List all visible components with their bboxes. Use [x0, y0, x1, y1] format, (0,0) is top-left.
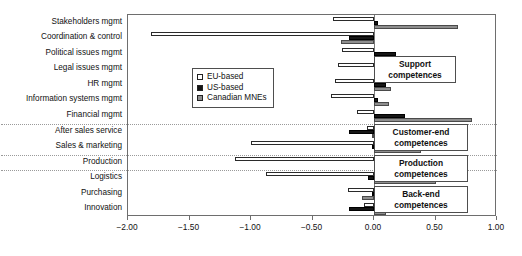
- bar-ca: [374, 102, 389, 106]
- x-tick-label: −0.50: [301, 222, 322, 232]
- x-tick: [250, 216, 251, 220]
- category-label: Innovation: [84, 203, 122, 213]
- x-tick-label: 0.00: [365, 222, 381, 232]
- annotation-back-end-line1: Back-end: [381, 189, 461, 200]
- bar-eu: [151, 32, 374, 36]
- bar-ca: [374, 87, 391, 91]
- bar-eu: [348, 188, 374, 192]
- x-tick: [496, 216, 497, 220]
- legend-item-us: US-based: [197, 83, 267, 94]
- legend-label-canadian: Canadian MNEs: [207, 93, 267, 104]
- x-axis: −2.00−1.50−1.00−0.500.000.501.00: [127, 216, 496, 242]
- bar-eu: [342, 48, 374, 52]
- category-label: Production: [83, 157, 122, 167]
- bar-eu: [338, 63, 374, 67]
- legend-swatch-icon-canadian: [197, 95, 203, 101]
- annotation-production-line2: competences: [381, 169, 461, 180]
- annotation-support: Support competences: [374, 56, 456, 83]
- category-label: Logistics: [90, 172, 122, 182]
- plot-inner: [128, 15, 495, 215]
- legend: EU-based US-based Canadian MNEs: [192, 68, 274, 108]
- annotation-customer-end-line2: competences: [381, 138, 461, 149]
- bar-eu: [235, 157, 374, 161]
- legend-item-canadian: Canadian MNEs: [197, 93, 267, 104]
- category-label: HR mgmt: [87, 79, 122, 89]
- bar-us: [349, 130, 374, 134]
- legend-label-eu: EU-based: [207, 72, 243, 83]
- annotation-support-line2: competences: [381, 70, 449, 81]
- bar-eu: [333, 17, 374, 21]
- x-tick-label: 1.00: [488, 222, 504, 232]
- category-label: Sales & marketing: [56, 141, 122, 151]
- category-label: Stakeholders mgmt: [51, 17, 122, 27]
- annotation-support-line1: Support: [381, 59, 449, 70]
- category-label: Information systems mgmt: [26, 94, 122, 104]
- category-label: Coordination & control: [41, 32, 122, 42]
- x-tick-label: 0.50: [426, 222, 442, 232]
- annotation-back-end-line2: competences: [381, 200, 461, 211]
- x-tick-label: −1.00: [239, 222, 260, 232]
- annotation-production: Production competences: [374, 155, 468, 182]
- category-label: Purchasing: [81, 188, 122, 198]
- bar-eu: [331, 94, 374, 98]
- category-axis-labels: Stakeholders mgmtCoordination & controlP…: [0, 0, 126, 256]
- annotation-production-line1: Production: [381, 158, 461, 169]
- x-tick: [435, 216, 436, 220]
- x-tick-label: −2.00: [116, 222, 137, 232]
- bar-ca: [374, 118, 472, 122]
- bar-eu: [335, 79, 374, 83]
- bar-ca: [374, 25, 458, 29]
- legend-swatch-icon-us: [197, 85, 203, 91]
- x-tick-label: −1.50: [178, 222, 199, 232]
- bar-ca: [362, 196, 374, 200]
- category-label: Legal issues mgmt: [54, 63, 122, 73]
- legend-swatch-icon-eu: [197, 74, 203, 80]
- x-tick: [189, 216, 190, 220]
- bar-us: [349, 207, 374, 211]
- bar-ca: [341, 40, 374, 44]
- annotation-customer-end: Customer-end competences: [374, 124, 468, 151]
- category-label: Political issues mgmt: [46, 48, 122, 58]
- annotation-back-end: Back-end competences: [374, 186, 468, 213]
- x-tick: [373, 216, 374, 220]
- bar-eu: [357, 110, 374, 114]
- legend-item-eu: EU-based: [197, 72, 267, 83]
- category-label: Financial mgmt: [66, 110, 122, 120]
- bar-chart: Stakeholders mgmtCoordination & controlP…: [0, 0, 522, 256]
- x-tick: [312, 216, 313, 220]
- x-tick: [127, 216, 128, 220]
- bar-eu: [251, 141, 374, 145]
- bar-eu: [266, 172, 374, 176]
- annotation-customer-end-line1: Customer-end: [381, 127, 461, 138]
- category-label: After sales service: [55, 126, 122, 136]
- legend-label-us: US-based: [207, 83, 243, 94]
